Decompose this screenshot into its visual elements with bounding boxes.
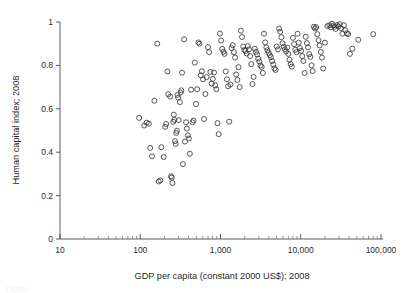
data-point [207,50,212,55]
data-point [170,181,175,186]
data-point [295,31,300,36]
data-point [236,65,241,70]
data-point [182,37,187,42]
data-point [309,63,314,68]
data-point [164,121,169,126]
data-point [215,121,220,126]
data-point [219,38,224,43]
data-point [184,120,189,125]
data-point [318,49,323,54]
data-point [250,82,255,87]
data-point [171,112,176,117]
data-point [346,32,351,37]
data-point [223,69,228,74]
data-point [251,74,256,79]
data-point [301,59,306,64]
data-point [316,38,321,43]
data-point [260,71,265,76]
data-point [237,85,242,90]
data-point [252,46,257,51]
y-tick-label: 0.6 [41,104,53,114]
data-point [158,178,163,183]
y-tick-label: 0.8 [41,60,53,70]
data-point [193,102,198,107]
caption-ghost: Figure [6,285,28,292]
data-point [350,46,355,51]
data-point [273,67,278,72]
data-point [197,41,202,46]
axis-ticks [56,22,381,239]
x-tick-label: 10,000 [288,245,314,255]
data-point [315,32,320,37]
data-point [238,28,243,33]
data-point [262,31,267,36]
data-point [187,151,192,156]
data-point [159,145,164,150]
data-point [196,40,201,45]
data-point [296,40,301,45]
y-tick-label: 0.2 [41,191,53,201]
data-point [165,69,170,74]
data-point [180,70,185,75]
axes [60,22,383,239]
data-point [300,54,305,59]
chart-canvas: 00.20.40.60.81101001,00010,000100,000 GD… [0,0,414,293]
data-point [210,76,215,81]
data-point [185,133,190,138]
data-point [161,154,166,159]
scatter-figure: 00.20.40.60.81101001,00010,000100,000 GD… [0,0,414,293]
data-point [224,77,229,82]
data-point [202,117,207,122]
data-point [205,45,210,50]
data-point [212,70,217,75]
data-point [231,50,236,55]
data-point [248,54,253,59]
data-point [233,55,238,60]
y-tick-label: 0.4 [41,147,53,157]
scatter-points [137,21,376,185]
data-point [217,31,222,36]
data-point [278,29,283,34]
data-point [249,62,254,67]
y-tick-label: 1 [48,17,53,27]
data-point [180,162,185,167]
data-point [216,132,221,137]
axis-tick-labels: 00.20.40.60.81101001,00010,000100,000 [41,17,396,255]
data-point [149,154,154,159]
data-point [302,71,307,76]
data-point [290,35,295,40]
data-point [227,119,232,124]
data-point [189,87,194,92]
data-point [322,40,327,45]
data-point [319,55,324,60]
data-point [195,87,200,92]
data-point [137,115,142,120]
data-point [321,66,326,71]
data-point [317,43,322,48]
y-axis-title: Human capital index; 2008 [11,76,21,185]
data-point [235,77,240,82]
data-point [279,35,284,40]
data-point [192,60,197,65]
data-point [263,40,268,45]
data-point [184,126,189,131]
data-point [148,145,153,150]
x-tick-label: 100 [133,245,147,255]
data-point [303,34,308,39]
data-point [240,34,245,39]
data-point [356,37,361,42]
data-point [347,51,352,56]
data-point [203,92,208,97]
data-point [259,64,264,69]
x-axis-title: GDP per capita (constant 2000 US$); 2008 [134,271,309,281]
x-tick-label: 1,000 [210,245,232,255]
x-tick-label: 10 [55,245,65,255]
data-point [371,32,376,37]
data-point [234,72,239,77]
data-point [177,100,182,105]
x-tick-label: 100,000 [366,245,397,255]
data-point [152,98,157,103]
y-tick-label: 0 [48,234,53,244]
data-point [277,26,282,31]
data-point [155,41,160,46]
